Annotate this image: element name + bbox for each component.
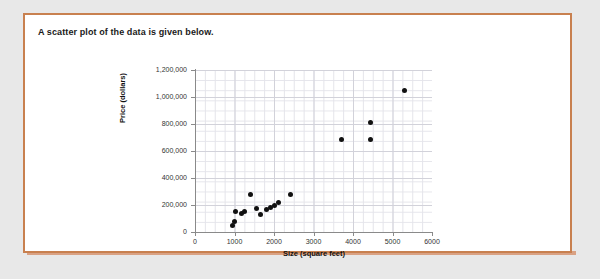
- y-axis-tick-label: 0: [127, 228, 187, 235]
- x-axis-tick-label: 2000: [254, 238, 294, 245]
- data-point: [254, 206, 259, 211]
- y-axis-tick-label: 800,000: [127, 120, 187, 127]
- y-axis-title: Price (dollars): [118, 73, 127, 123]
- y-axis-tick-label: 200,000: [127, 201, 187, 208]
- x-axis-tick: [195, 232, 196, 236]
- y-axis-tick-label: 400,000: [127, 174, 187, 181]
- plot-area: [195, 70, 432, 232]
- x-axis-tick: [432, 232, 433, 236]
- scatter-plot-figure: 0200,000400,000600,000800,0001,000,0001,…: [25, 15, 574, 255]
- y-axis-tick: [191, 70, 195, 71]
- y-axis-tick: [191, 97, 195, 98]
- major-gridlines: [195, 70, 432, 232]
- y-axis-line: [195, 69, 196, 233]
- x-axis-tick-label: 5000: [373, 238, 413, 245]
- data-point: [339, 137, 344, 142]
- y-axis-tick-label: 600,000: [127, 147, 187, 154]
- y-axis-tick-label: 1,200,000: [127, 66, 187, 73]
- y-axis-tick: [191, 205, 195, 206]
- y-axis-tick: [191, 151, 195, 152]
- x-axis-tick: [353, 232, 354, 236]
- x-axis-tick-label: 0: [175, 238, 215, 245]
- y-axis-tick: [191, 124, 195, 125]
- x-axis-tick: [274, 232, 275, 236]
- data-point: [258, 212, 263, 217]
- y-axis-tick-label: 1,000,000: [127, 93, 187, 100]
- x-axis-tick: [314, 232, 315, 236]
- x-axis-tick-label: 3000: [294, 238, 334, 245]
- x-axis-tick-label: 6000: [412, 238, 452, 245]
- content-card: A scatter plot of the data is given belo…: [23, 13, 572, 253]
- x-axis-title: Size (square feet): [195, 249, 433, 258]
- x-axis-tick: [235, 232, 236, 236]
- x-axis-tick: [393, 232, 394, 236]
- screenshot-page: A scatter plot of the data is given belo…: [0, 0, 600, 279]
- x-axis-tick-label: 1000: [215, 238, 255, 245]
- x-axis-tick-label: 4000: [333, 238, 373, 245]
- y-axis-tick: [191, 178, 195, 179]
